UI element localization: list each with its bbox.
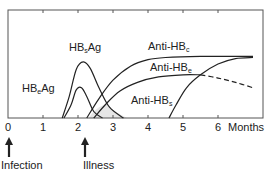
x-tick-label: 2 [75, 121, 81, 133]
x-tick-label: 1 [40, 121, 46, 133]
anti-hbe-dashed-tail [201, 75, 254, 88]
curve-labels: HBeAgHBsAgAnti-HBcAnti-HBeAnti-HBs [22, 40, 192, 107]
hepatitis-b-serology-chart: 0123456 HBeAgHBsAgAnti-HBcAnti-HBeAnti-H… [0, 0, 275, 171]
x-tick-label: 0 [5, 121, 11, 133]
hbeag-label: HBeAg [22, 82, 55, 95]
hbsag-label: HBsAg [69, 41, 101, 54]
illness-arrow-icon [81, 137, 89, 157]
x-tick-label: 3 [110, 121, 116, 133]
anti-hbs-label: Anti-HBs [131, 94, 173, 107]
x-tick-label: 5 [180, 121, 186, 133]
anti-hbc-label: Anti-HBc [148, 40, 190, 53]
x-axis-unit-label: Months [228, 121, 265, 133]
x-tick-label: 4 [145, 121, 151, 133]
infection-label: Infection [1, 159, 43, 171]
infection-arrow-icon [5, 137, 13, 157]
anti-hbe-label: Anti-HBe [150, 61, 192, 74]
x-tick-label: 6 [215, 121, 221, 133]
illness-label: Illness [83, 159, 115, 171]
